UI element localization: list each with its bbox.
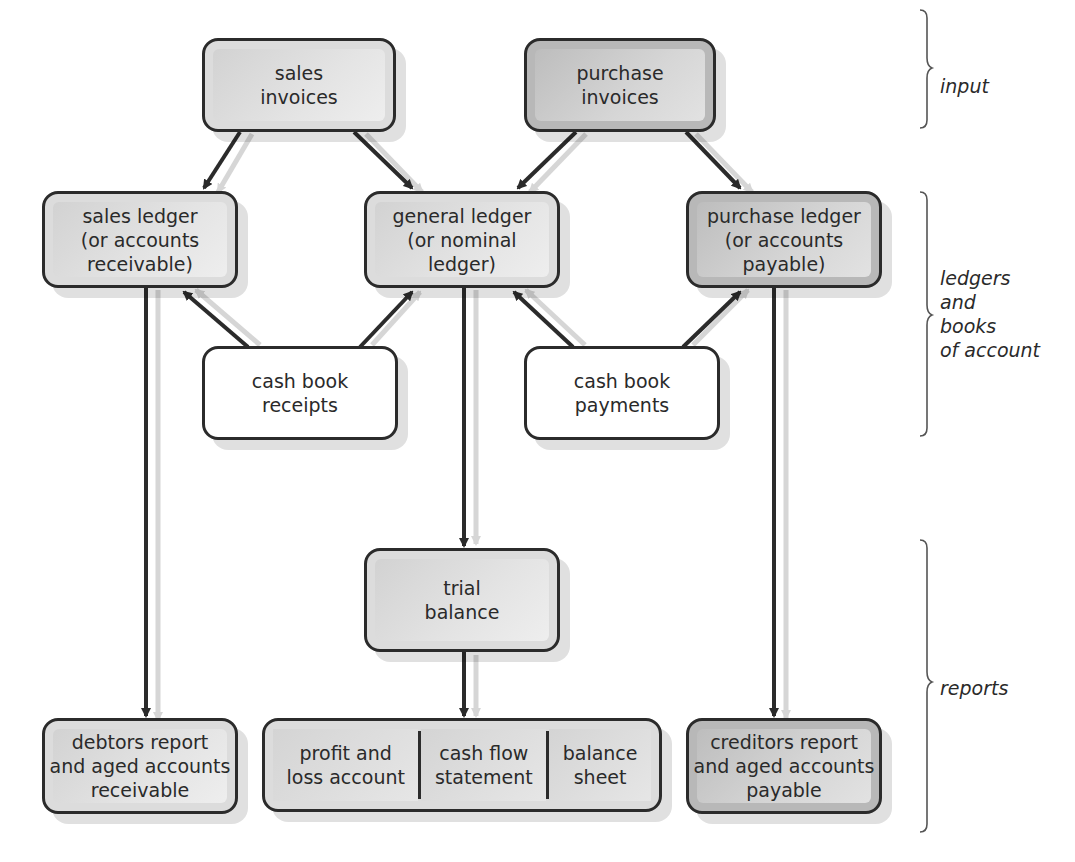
sales-ledger-label: sales ledger (or accounts receivable) xyxy=(81,204,199,276)
section-label-ledgers: ledgers and books of account xyxy=(940,266,1040,362)
creditors-report-label: creditors report and aged accounts payab… xyxy=(694,730,875,802)
balance-sheet-cell: balance sheet xyxy=(549,729,651,801)
section-label-input: input xyxy=(940,74,989,98)
trial-balance-label: trial balance xyxy=(425,576,500,624)
cash-book-payments-label: cash book payments xyxy=(574,369,670,417)
sales-invoices-box: sales invoices xyxy=(202,38,396,132)
trial-balance-box: trial balance xyxy=(364,548,560,652)
debtors-report-box: debtors report and aged accounts receiva… xyxy=(42,718,238,814)
cash-book-receipts-box: cash book receipts xyxy=(202,346,398,440)
purchase-invoices-label: purchase invoices xyxy=(576,61,663,109)
debtors-report-label: debtors report and aged accounts receiva… xyxy=(50,730,231,802)
financial-statements-box: profit and loss account cash flow statem… xyxy=(262,718,662,812)
cash-flow-statement-cell: cash flow statement xyxy=(421,729,546,801)
general-ledger-label: general ledger (or nominal ledger) xyxy=(393,204,532,276)
purchase-invoices-box: purchase invoices xyxy=(524,38,716,132)
general-ledger-box: general ledger (or nominal ledger) xyxy=(364,191,560,288)
sales-ledger-box: sales ledger (or accounts receivable) xyxy=(42,191,238,288)
accounting-flow-diagram: sales invoices purchase invoices sales l… xyxy=(0,0,1075,862)
profit-and-loss-cell: profit and loss account xyxy=(273,729,418,801)
purchase-ledger-box: purchase ledger (or accounts payable) xyxy=(686,191,882,288)
purchase-ledger-label: purchase ledger (or accounts payable) xyxy=(707,204,861,276)
cash-book-receipts-label: cash book receipts xyxy=(252,369,348,417)
section-label-reports: reports xyxy=(940,676,1008,700)
creditors-report-box: creditors report and aged accounts payab… xyxy=(686,718,882,814)
cash-book-payments-box: cash book payments xyxy=(524,346,720,440)
brace-reports xyxy=(920,540,932,832)
brace-input xyxy=(920,10,932,128)
sales-invoices-label: sales invoices xyxy=(260,61,338,109)
brace-ledgers xyxy=(920,192,932,436)
